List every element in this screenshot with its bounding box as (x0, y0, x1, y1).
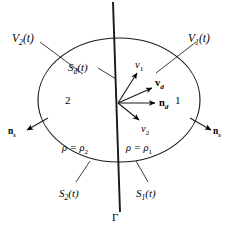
label-normal-left-sub: s (13, 131, 16, 138)
label-surface-1: S1(t) (136, 188, 156, 199)
label-vector-v1-sub: 1 (140, 65, 144, 73)
vector-v2-arrow (118, 103, 139, 120)
label-density-2-sub: 2 (84, 148, 88, 156)
label-surface-d-suffix: (t) (77, 61, 87, 73)
label-region-2: 2 (65, 95, 71, 106)
label-normal-left: ns (8, 127, 16, 137)
label-density-1-sub: 1 (148, 148, 152, 156)
label-vector-vd: vd (155, 78, 164, 89)
normal-left-arrow (27, 118, 48, 130)
label-normal-right-sub: s (218, 131, 221, 138)
leader-line-v1 (156, 42, 196, 73)
gamma-line (113, 2, 120, 212)
label-vector-v1: v1 (135, 60, 143, 71)
label-vector-v2-sub: 2 (146, 129, 150, 137)
label-region-1: 1 (175, 95, 181, 106)
label-vector-vd-sub: d (160, 83, 164, 91)
label-volume-1: V1(t) (188, 33, 210, 45)
label-surface-2-suffix: (t) (68, 187, 78, 199)
label-density-1: ρ = ρ1 (126, 143, 152, 154)
label-density-2-eq: = (67, 142, 79, 153)
label-density-1-eq: = (131, 142, 143, 153)
label-volume-2-suffix: (t) (23, 32, 34, 44)
figure-canvas: V2(t) V1(t) Sd(t) S2(t) S1(t) 2 1 v1 vd … (0, 0, 236, 230)
label-surface-1-suffix: (t) (145, 187, 155, 199)
label-density-2: ρ = ρ2 (62, 143, 88, 154)
label-volume-2-text: V (12, 32, 19, 44)
label-gamma: Γ (112, 212, 118, 223)
label-volume-1-text: V (188, 32, 195, 44)
label-vector-v2: v2 (141, 124, 149, 135)
label-volume-2: V2(t) (12, 33, 34, 45)
label-volume-1-suffix: (t) (199, 32, 210, 44)
label-normal-right: ns (213, 127, 221, 137)
label-vector-nd: nd (159, 98, 168, 109)
leader-line-s2 (76, 161, 90, 182)
label-surface-d: Sd(t) (68, 62, 88, 73)
label-vector-nd-sub: d (165, 103, 169, 111)
normal-right-arrow (190, 118, 211, 130)
leader-line-s1 (136, 161, 148, 182)
leader-line-sd (98, 68, 116, 79)
label-surface-2: S2(t) (59, 188, 79, 199)
